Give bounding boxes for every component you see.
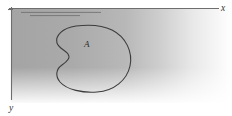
- region-a-label: A: [83, 39, 90, 49]
- figure-container: A x y: [0, 0, 232, 116]
- y-axis-label: y: [8, 103, 14, 113]
- left-margin: [0, 0, 10, 116]
- bottom-margin: [0, 103, 232, 116]
- x-axis-label: x: [220, 3, 226, 13]
- top-margin: [0, 0, 232, 8]
- region-diagram-svg: A x y: [0, 0, 232, 116]
- shaded-field-fade: [11, 9, 232, 103]
